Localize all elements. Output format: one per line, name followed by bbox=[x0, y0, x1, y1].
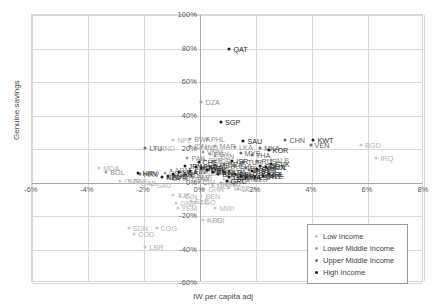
data-point bbox=[309, 143, 312, 146]
data-point bbox=[197, 180, 200, 183]
y-tick-label: 100% bbox=[174, 10, 197, 19]
data-point bbox=[189, 137, 192, 140]
gridline-horizontal bbox=[32, 15, 422, 16]
data-point-label: COD bbox=[138, 230, 154, 239]
data-point bbox=[259, 147, 262, 150]
x-tick-label: 4% bbox=[305, 185, 316, 194]
data-point bbox=[375, 157, 378, 160]
data-point bbox=[220, 121, 223, 124]
data-point-label: KWT bbox=[317, 135, 333, 144]
data-point bbox=[183, 164, 186, 167]
data-point bbox=[144, 245, 147, 248]
x-tick-label: -2% bbox=[136, 185, 150, 194]
x-tick-label: -4% bbox=[80, 185, 94, 194]
data-point-label: SGP bbox=[225, 118, 240, 127]
data-point bbox=[127, 226, 130, 229]
data-point-label: COG bbox=[161, 223, 178, 232]
x-tick-label: -6% bbox=[24, 185, 38, 194]
data-point bbox=[220, 181, 223, 184]
data-point bbox=[175, 201, 178, 204]
data-point-label: LTU bbox=[149, 144, 162, 153]
data-point bbox=[284, 138, 287, 141]
data-point bbox=[234, 146, 237, 149]
data-point bbox=[172, 138, 175, 141]
data-point bbox=[105, 171, 108, 174]
legend-label: Low Income bbox=[323, 232, 363, 241]
y-tick-label: -40% bbox=[174, 244, 197, 253]
legend-item[interactable]: Lower Middle Income bbox=[315, 242, 399, 254]
data-point-label: KOR bbox=[273, 145, 289, 154]
data-point-label: BGD bbox=[365, 140, 381, 149]
data-point bbox=[137, 172, 140, 175]
data-point-label: CHN bbox=[289, 135, 305, 144]
x-tick-label: 2% bbox=[249, 185, 260, 194]
legend-marker-icon bbox=[315, 271, 318, 274]
gridline-horizontal bbox=[32, 82, 422, 83]
data-point bbox=[155, 226, 158, 229]
gridline-vertical bbox=[88, 15, 89, 281]
data-point-label: DZA bbox=[205, 98, 220, 107]
data-point-label: LBR bbox=[149, 242, 163, 251]
data-point bbox=[127, 179, 130, 182]
data-point-label: IRQ bbox=[380, 154, 393, 163]
data-point-label: BOL bbox=[110, 168, 125, 177]
data-point bbox=[200, 194, 203, 197]
data-point bbox=[200, 146, 203, 149]
data-point bbox=[200, 101, 203, 104]
legend: Low IncomeLower Middle IncomeUpper Middl… bbox=[307, 224, 408, 284]
legend-item[interactable]: Upper Middle Income bbox=[315, 254, 399, 266]
data-point-label: QAT bbox=[233, 44, 247, 53]
legend-marker-icon bbox=[315, 247, 318, 250]
legend-marker-icon bbox=[315, 235, 318, 238]
gridline-vertical bbox=[32, 15, 33, 281]
data-point-label: GRC bbox=[231, 176, 247, 185]
data-point bbox=[186, 157, 189, 160]
y-tick-label: -60% bbox=[174, 278, 197, 287]
data-point bbox=[228, 47, 231, 50]
data-point-label: CHE bbox=[203, 158, 218, 167]
x-axis-title: IW per capita adj bbox=[0, 292, 446, 301]
legend-marker-icon bbox=[315, 259, 318, 262]
data-point-label: BDI bbox=[212, 216, 224, 225]
x-tick-label: 6% bbox=[361, 185, 372, 194]
data-point bbox=[201, 150, 204, 153]
data-point bbox=[239, 152, 242, 155]
data-point bbox=[133, 233, 136, 236]
data-point bbox=[144, 147, 147, 150]
legend-item[interactable]: High Income bbox=[315, 266, 399, 278]
data-point-label: MWI bbox=[219, 204, 234, 213]
data-point bbox=[242, 139, 245, 142]
legend-label: Lower Middle Income bbox=[323, 244, 394, 253]
data-point bbox=[119, 179, 122, 182]
data-point bbox=[161, 176, 164, 179]
y-tick-label: 80% bbox=[174, 43, 197, 52]
gridline-horizontal bbox=[32, 116, 422, 117]
y-tick-label: -20% bbox=[174, 211, 197, 220]
genuine-savings-scatter-chart: SDNCOGCODLBRAFGBDIYEMSLETGOMWIGINGNBTJKB… bbox=[0, 0, 446, 308]
gridline-horizontal bbox=[32, 216, 422, 217]
data-point bbox=[207, 219, 210, 222]
data-point bbox=[151, 184, 154, 187]
gridline-vertical bbox=[424, 15, 425, 281]
data-point bbox=[98, 167, 101, 170]
y-tick-label: 40% bbox=[174, 110, 197, 119]
y-tick-label: 0% bbox=[174, 177, 197, 186]
y-tick-label: 20% bbox=[174, 144, 197, 153]
data-point-label: TJK bbox=[177, 191, 190, 200]
data-point-label: HRV bbox=[142, 169, 157, 178]
data-point bbox=[231, 159, 234, 162]
data-point-label: ISR bbox=[236, 156, 248, 165]
data-point bbox=[172, 194, 175, 197]
legend-item[interactable]: Low Income bbox=[315, 230, 399, 242]
y-tick-label: 60% bbox=[174, 77, 197, 86]
data-point bbox=[225, 179, 228, 182]
data-point bbox=[202, 219, 205, 222]
data-point bbox=[176, 207, 179, 210]
legend-label: High Income bbox=[323, 268, 365, 277]
data-point bbox=[360, 143, 363, 146]
data-point bbox=[197, 161, 200, 164]
x-tick-label: 8% bbox=[417, 185, 428, 194]
data-point-label: SAU bbox=[247, 136, 262, 145]
data-point bbox=[267, 148, 270, 151]
data-point bbox=[214, 207, 217, 210]
